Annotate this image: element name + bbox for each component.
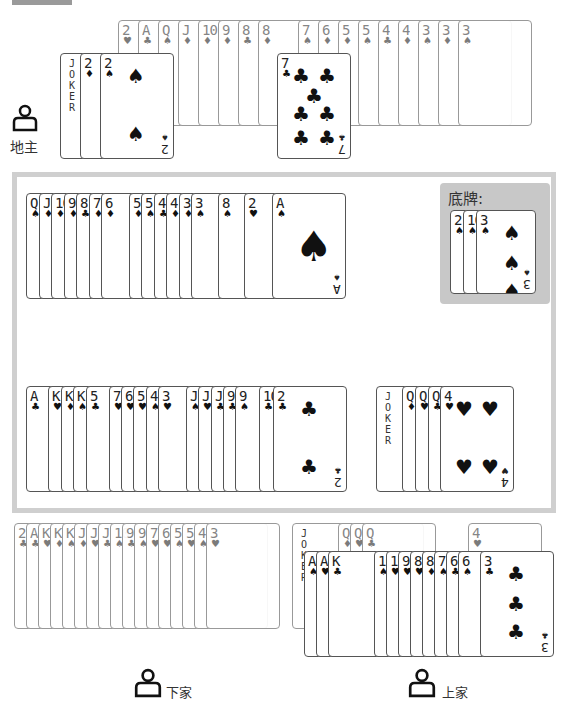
suit-icon: ♣ — [333, 567, 342, 577]
suit-icon: ♥ — [249, 209, 258, 219]
suit-icon: ♠ — [240, 402, 249, 412]
prev-player-user-icon — [408, 668, 436, 698]
card-corner-rotated: 2♠ — [161, 131, 169, 155]
playing-card[interactable]: 2♠2♠♠♠ — [100, 53, 174, 159]
suit-pip-icon: ♥ — [455, 457, 473, 477]
suit-icon: ♠ — [481, 226, 490, 236]
suit-pip-icon: ♣ — [292, 128, 310, 148]
suit-pip-icon: ♠ — [127, 124, 145, 144]
suit-pip-icon: ♠ — [503, 253, 521, 273]
playing-card[interactable]: 3♣3♣♣♣♣ — [480, 551, 554, 657]
top-bar — [12, 0, 72, 5]
playing-card: 7♣7♣♣♣♣♣♣♣♣ — [277, 53, 351, 159]
playing-card: 3♠3♠♠♠♠ — [476, 210, 536, 294]
card-corner-rotated: 7♣ — [338, 131, 346, 155]
playing-card: A♠A♠♠ — [272, 193, 346, 299]
suit-icon: ♥ — [163, 402, 172, 412]
next-player-user-icon — [134, 668, 162, 698]
suit-pip-icon: ♣ — [318, 128, 336, 148]
suit-icon: ♦ — [203, 36, 212, 46]
suit-pip-icon: ♣ — [292, 66, 310, 86]
suit-icon: ♦ — [263, 36, 272, 46]
suit-icon: ♦ — [443, 36, 452, 46]
card-corner-rotated: 3♠ — [523, 266, 531, 290]
card-corner-rotated: A♠ — [333, 271, 341, 295]
suit-icon: ♣ — [143, 36, 152, 46]
suit-pip-icon: ♣ — [292, 104, 310, 124]
suit-icon: ♥ — [473, 539, 482, 549]
suit-icon: ♦ — [85, 69, 94, 79]
suit-icon: ♦ — [403, 36, 412, 46]
suit-icon: ♠ — [163, 36, 172, 46]
suit-pip-icon: ♣ — [507, 594, 525, 614]
suit-icon: ♦ — [106, 209, 115, 219]
suit-icon: ♠ — [196, 209, 205, 219]
suit-icon: ♠ — [463, 36, 472, 46]
suit-icon: ♠ — [303, 36, 312, 46]
suit-icon: ♠ — [105, 69, 114, 79]
landlord-user-icon — [12, 104, 38, 132]
suit-icon: ♣ — [91, 402, 100, 412]
suit-icon: ♣ — [485, 567, 494, 577]
suit-pip-icon: ♠ — [503, 281, 521, 294]
card-corner-rotated: 4♥ — [501, 464, 509, 488]
suit-icon: ♦ — [323, 36, 332, 46]
playing-card: 4♥4♥♥♥♥♥ — [440, 386, 514, 492]
suit-pip-icon: ♥ — [481, 457, 499, 477]
suit-pip-icon: ♥ — [481, 399, 499, 419]
card-corner-rotated: 2♣ — [334, 464, 342, 488]
suit-icon: ♥ — [445, 402, 454, 412]
suit-pip-icon: ♣ — [507, 564, 525, 584]
suit-icon: ♣ — [367, 539, 376, 549]
suit-icon: ♠ — [423, 36, 432, 46]
suit-icon: ♣ — [278, 402, 287, 412]
prev-player-label: 上家 — [442, 682, 468, 701]
suit-pip-icon: ♠ — [127, 66, 145, 86]
playing-card[interactable]: 3♠ — [458, 20, 532, 126]
suit-icon: ♣ — [264, 402, 273, 412]
suit-pip-icon: ♠ — [503, 223, 521, 243]
suit-icon: ♠ — [363, 36, 372, 46]
suit-icon: ♦ — [343, 36, 352, 46]
suit-pip-icon: ♥ — [455, 399, 473, 419]
ace-spade-emblem-icon: ♠ — [295, 226, 333, 268]
suit-icon: ♣ — [243, 36, 252, 46]
playing-card: 2♣2♣♣♣ — [273, 386, 347, 492]
suit-icon: ♥ — [211, 539, 220, 549]
suit-pip-icon: ♣ — [318, 104, 336, 124]
suit-icon: ♠ — [277, 209, 286, 219]
suit-icon: ♣ — [383, 36, 392, 46]
suit-icon: ♣ — [31, 402, 40, 412]
suit-icon: ♣ — [282, 69, 291, 79]
suit-pip-icon: ♣ — [318, 66, 336, 86]
card-corner-rotated: 3♣ — [541, 629, 549, 653]
suit-icon: ♠ — [463, 567, 472, 577]
suit-icon: ♦ — [183, 36, 192, 46]
bottom-cards-label: 底牌: — [448, 187, 483, 208]
joker-label: JOKER — [383, 391, 393, 446]
suit-pip-icon: ♣ — [300, 457, 318, 477]
suit-pip-icon: ♣ — [507, 622, 525, 642]
joker-label: JOKER — [67, 58, 77, 113]
suit-pip-icon: ♣ — [300, 399, 318, 419]
suit-icon: ♠ — [223, 209, 232, 219]
suit-icon: ♥ — [123, 36, 132, 46]
next-player-label: 下家 — [166, 682, 192, 701]
landlord-label: 地主 — [10, 136, 38, 156]
playing-card[interactable]: 3♥ — [206, 523, 280, 629]
suit-icon: ♦ — [223, 36, 232, 46]
